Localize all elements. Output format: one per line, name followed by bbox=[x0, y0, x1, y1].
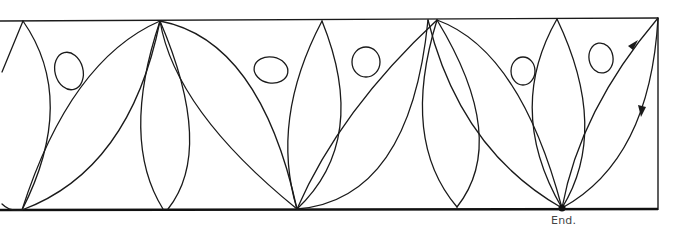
continuous-line-diagram: End. bbox=[0, 0, 678, 236]
frame bbox=[0, 18, 658, 210]
petal-group-3 bbox=[422, 18, 658, 208]
end-point-marker bbox=[559, 205, 566, 212]
left-edge-marks bbox=[2, 21, 23, 210]
diagram-canvas bbox=[0, 0, 678, 236]
petal-group-2 bbox=[252, 20, 437, 209]
end-label: End. bbox=[551, 214, 576, 227]
petal-group-1 bbox=[22, 21, 297, 210]
